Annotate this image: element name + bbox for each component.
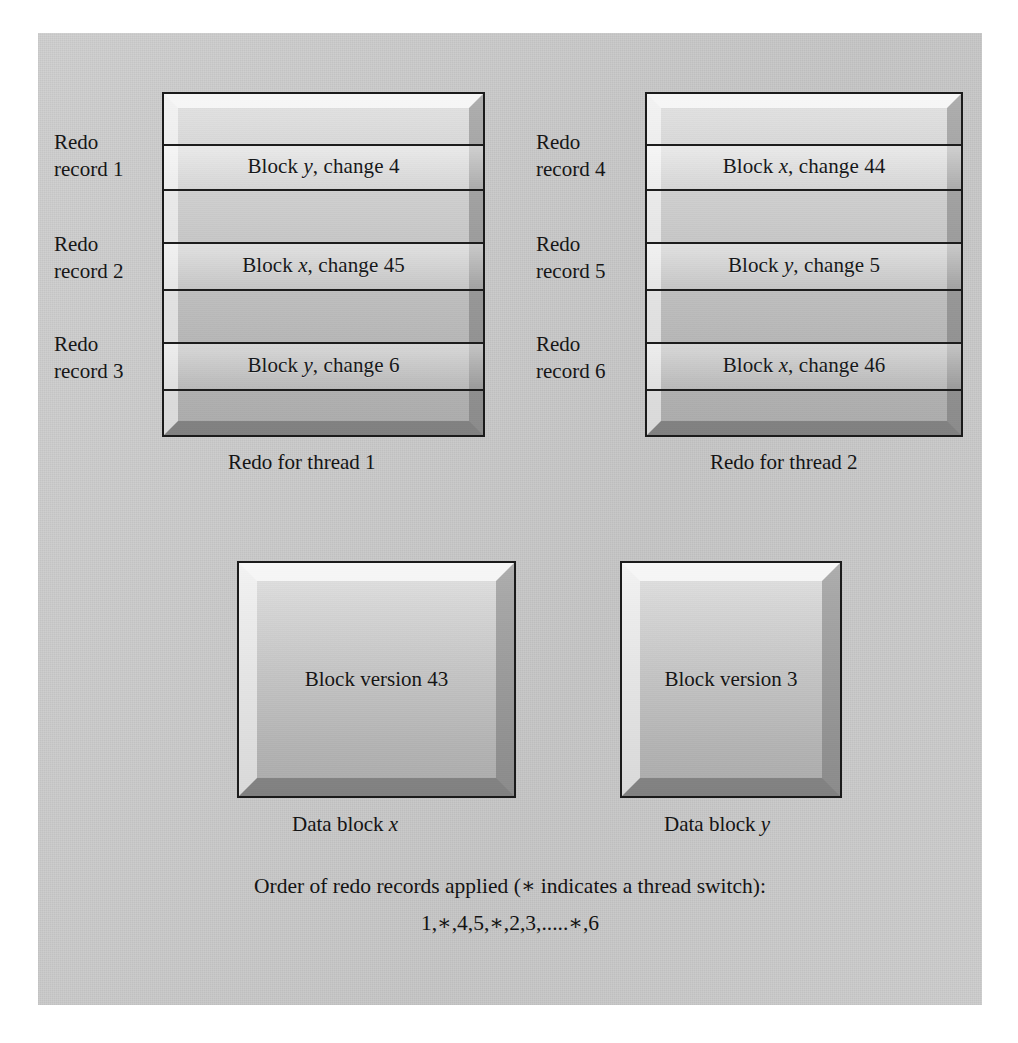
block-variable: x	[779, 353, 788, 377]
redo-divider	[647, 342, 961, 344]
redo-record-6-label: Redo record 6	[536, 331, 605, 385]
redo-log-thread-2: Block x, change 44 Block y, change 5 Blo…	[645, 92, 963, 437]
redo-divider	[164, 144, 483, 146]
data-block-x: Block version 43	[237, 561, 516, 798]
diagram-panel: Block y, change 4 Block x, change 45 Blo…	[38, 33, 982, 1005]
redo-divider	[647, 389, 961, 391]
block-variable: y	[761, 812, 770, 836]
redo-thread-1-caption: Redo for thread 1	[228, 450, 376, 475]
redo-record-4-label: Redo record 4	[536, 129, 605, 183]
redo-record-3-text: Block y, change 6	[247, 353, 399, 378]
redo-record-2-label: Redo record 2	[54, 231, 123, 285]
block-variable: y	[303, 154, 312, 178]
redo-record-5-text: Block y, change 5	[728, 253, 880, 278]
redo-divider	[164, 189, 483, 191]
redo-divider	[164, 289, 483, 291]
redo-record-3-label: Redo record 3	[54, 331, 123, 385]
redo-record-1-label: Redo record 1	[54, 129, 123, 183]
block-variable: y	[784, 253, 793, 277]
redo-divider	[647, 289, 961, 291]
redo-record-1-text: Block y, change 4	[247, 154, 399, 179]
redo-divider	[647, 242, 961, 244]
order-of-records-line-2: 1,∗,4,5,∗,2,3,.....∗,6	[38, 910, 982, 936]
redo-record-5-label: Redo record 5	[536, 231, 605, 285]
data-block-y-version: Block version 3	[622, 667, 840, 692]
redo-record-4-text: Block x, change 44	[723, 154, 886, 179]
block-variable: x	[779, 154, 788, 178]
block-variable: y	[303, 353, 312, 377]
redo-divider	[164, 389, 483, 391]
redo-divider	[647, 189, 961, 191]
redo-divider	[647, 144, 961, 146]
redo-log-thread-1: Block y, change 4 Block x, change 45 Blo…	[162, 92, 485, 437]
redo-divider	[164, 242, 483, 244]
block-variable: x	[389, 812, 398, 836]
data-block-y-caption: Data block y	[664, 812, 770, 837]
redo-thread-2-caption: Redo for thread 2	[710, 450, 858, 475]
redo-divider	[164, 342, 483, 344]
data-block-x-caption: Data block x	[292, 812, 398, 837]
redo-record-2-text: Block x, change 45	[242, 253, 405, 278]
data-block-y: Block version 3	[620, 561, 842, 798]
block-variable: x	[298, 253, 307, 277]
data-block-x-version: Block version 43	[239, 667, 514, 692]
order-of-records-line-1: Order of redo records applied (∗ indicat…	[38, 873, 982, 899]
redo-record-6-text: Block x, change 46	[723, 353, 886, 378]
